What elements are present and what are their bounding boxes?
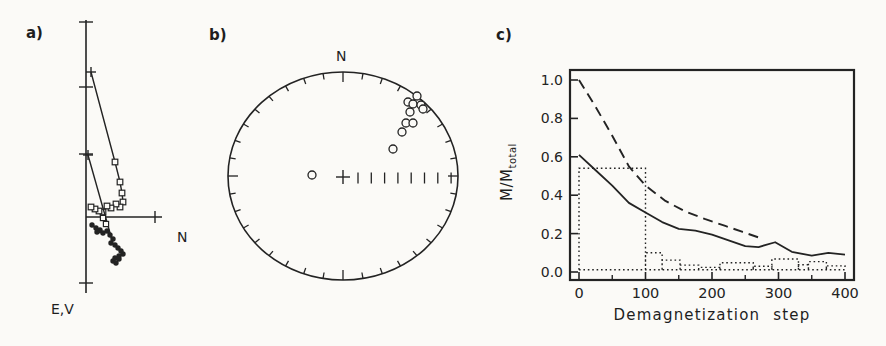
b-rim-tick xyxy=(380,268,382,274)
b-rim-tick xyxy=(230,158,236,159)
c-x-tick-label: 400 xyxy=(831,285,859,301)
b-rim-tick xyxy=(437,124,442,127)
panel-c-label: c) xyxy=(496,26,512,44)
b-rim-tick xyxy=(304,268,306,274)
panel-b-stereonet xyxy=(228,72,458,280)
b-rim-tick xyxy=(243,225,248,228)
c-y-tick-label: 0.4 xyxy=(541,187,563,203)
a-open-square-marker xyxy=(104,203,110,209)
y-axis-title-subscript: total xyxy=(507,143,518,168)
c-series-dashed xyxy=(579,80,759,237)
b-rim-tick xyxy=(362,273,363,279)
a-filled-circle-marker xyxy=(94,229,99,234)
b-rim-tick xyxy=(269,251,273,256)
c-x-tick-label: 200 xyxy=(698,285,726,301)
panel-a-horizontal-axis-label: N xyxy=(177,229,187,245)
b-rim-tick xyxy=(269,96,273,101)
b-direction-point xyxy=(406,108,414,116)
figure-svg: 01002003004000.00.20.40.60.81.0 xyxy=(0,0,886,346)
b-rim-tick xyxy=(235,140,241,142)
c-plot-frame xyxy=(570,70,854,280)
figure: 01002003004000.00.20.40.60.81.0 a) N E,V… xyxy=(0,0,886,346)
a-open-square-marker xyxy=(88,204,94,210)
panel-a-plot xyxy=(79,20,162,293)
b-rim-tick xyxy=(286,86,289,91)
a-open-square-marker xyxy=(103,221,108,226)
b-rim-tick xyxy=(255,109,260,113)
b-rim-tick xyxy=(286,261,289,266)
panel-a-label: a) xyxy=(26,24,43,42)
a-open-square-marker xyxy=(112,159,118,165)
c-y-tick-label: 0.2 xyxy=(541,226,563,242)
b-direction-point xyxy=(409,119,417,127)
b-rim-tick xyxy=(445,210,451,212)
b-rim-tick xyxy=(437,225,442,228)
b-rim-tick xyxy=(362,74,363,80)
b-rim-tick xyxy=(413,251,417,256)
b-rim-tick xyxy=(445,140,451,142)
b-rim-tick xyxy=(230,193,236,194)
b-rim-tick xyxy=(235,210,241,212)
b-rim-tick xyxy=(380,78,382,84)
c-x-tick-label: 0 xyxy=(574,285,583,301)
c-y-tick-label: 1.0 xyxy=(541,72,563,88)
b-rim-tick xyxy=(450,158,456,159)
c-y-tick-label: 0.0 xyxy=(541,264,563,280)
b-rim-tick xyxy=(426,239,431,243)
a-open-square-marker xyxy=(117,179,123,185)
c-series-solid xyxy=(579,155,845,256)
panel-c-y-axis-title: M/Mtotal xyxy=(498,143,518,201)
a-squares-path-line xyxy=(91,72,123,212)
c-x-tick-label: 100 xyxy=(632,285,660,301)
panel-a-vertical-axis-label: E,V xyxy=(51,301,74,317)
panel-b-north-label: N xyxy=(336,48,346,64)
panel-b-label: b) xyxy=(209,26,227,44)
b-direction-point xyxy=(308,171,316,179)
a-open-square-marker xyxy=(119,190,125,196)
a-open-square-marker xyxy=(100,215,105,220)
b-rim-tick xyxy=(304,78,306,84)
c-x-tick-label: 300 xyxy=(765,285,793,301)
b-rim-tick xyxy=(398,86,401,91)
b-rim-tick xyxy=(255,239,260,243)
b-rim-tick xyxy=(398,261,401,266)
b-rim-tick xyxy=(323,273,324,279)
a-filled-circle-marker xyxy=(116,256,121,261)
b-direction-point xyxy=(389,145,397,153)
b-direction-point xyxy=(409,100,417,108)
c-y-tick-label: 0.6 xyxy=(541,149,563,165)
b-rim-tick xyxy=(323,74,324,80)
b-rim-tick xyxy=(450,193,456,194)
b-rim-tick xyxy=(243,124,248,127)
panel-c-x-axis-title: Demagnetization step xyxy=(614,306,811,324)
y-axis-title-main: M/M xyxy=(498,168,516,200)
b-direction-point xyxy=(413,92,421,100)
panel-c-demag-chart: 01002003004000.00.20.40.60.81.0 xyxy=(541,70,859,301)
b-direction-point xyxy=(398,128,406,136)
b-direction-point xyxy=(419,105,427,113)
c-y-tick-label: 0.8 xyxy=(541,110,563,126)
